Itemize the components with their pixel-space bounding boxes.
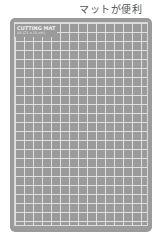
cutting-mat-image: CUTTING MAT A5 (21 x 15 cm) bbox=[10, 18, 152, 232]
mat-size: A5 (21 x 15 cm) bbox=[17, 31, 55, 36]
mat-label: CUTTING MAT A5 (21 x 15 cm) bbox=[15, 24, 57, 37]
grid-lines bbox=[14, 22, 148, 226]
caption-text: マットが便利 bbox=[79, 1, 142, 16]
